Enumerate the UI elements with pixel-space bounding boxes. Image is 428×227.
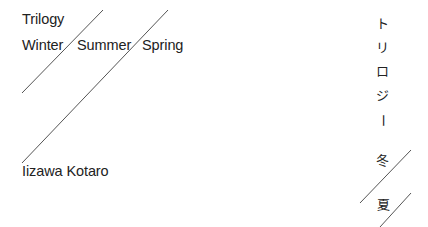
ja-char: リ: [376, 36, 389, 60]
diagonal-slashes: [0, 0, 428, 227]
title-natsu: 夏: [377, 194, 390, 213]
ja-char: ー: [370, 114, 394, 127]
title-fuyu: 冬: [376, 150, 389, 169]
title-winter: Winter: [22, 38, 63, 53]
ja-char: ジ: [376, 84, 389, 108]
title-summer: Summer: [77, 38, 131, 53]
author-name: Iizawa Kotaro: [22, 164, 109, 179]
series-title-ja-vertical: ト リ ロ ジ ー: [372, 12, 392, 132]
ja-char: ト: [376, 12, 389, 36]
ja-char: ロ: [376, 60, 389, 84]
title-spring: Spring: [142, 38, 183, 53]
slash-summer-spring: [22, 10, 168, 163]
series-title-en: Trilogy: [22, 12, 64, 27]
